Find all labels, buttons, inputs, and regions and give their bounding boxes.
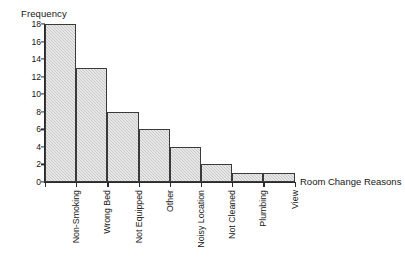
x-tick-label-text: Non-Smoking (71, 190, 81, 243)
x-tick-mark (139, 183, 140, 187)
x-tick-mark (45, 183, 46, 187)
bar (170, 147, 201, 182)
x-tick-label-text: View (290, 190, 300, 209)
y-tick-label: 0 (0, 177, 41, 187)
x-axis-title: Room Change Reasons (300, 176, 401, 187)
x-tick-label-text: Noisy Location (196, 190, 206, 248)
y-tick-label: 6 (0, 124, 41, 134)
x-tick-label-text: Not Equipped (134, 190, 144, 243)
x-tick-mark (76, 183, 77, 187)
bar (45, 24, 76, 182)
bar (201, 164, 232, 182)
x-tick-label-text: Other (165, 190, 175, 212)
x-tick-label-text: Not Cleaned (227, 190, 237, 239)
x-tick-mark (170, 183, 171, 187)
y-tick-label: 14 (0, 54, 41, 64)
bar (139, 129, 170, 182)
y-axis-title: Frequency (21, 8, 67, 19)
x-tick-label-text: Wrong Bed (102, 190, 112, 234)
y-tick-label: 2 (0, 159, 41, 169)
y-tick-label: 10 (0, 89, 41, 99)
y-tick-label: 12 (0, 72, 41, 82)
y-tick-label: 4 (0, 142, 41, 152)
x-tick-mark (107, 183, 108, 187)
x-tick-label-text: Plumbing (258, 190, 268, 227)
bar (76, 68, 107, 182)
y-tick-label: 18 (0, 19, 41, 29)
bar-chart: Frequency Room Change Reasons 0246810121… (0, 0, 405, 257)
x-tick-mark (201, 183, 202, 187)
y-tick-label: 8 (0, 107, 41, 117)
x-tick-mark (263, 183, 264, 187)
plot-area (45, 24, 296, 182)
bar (263, 173, 294, 182)
x-tick-mark (232, 183, 233, 187)
y-tick-label: 16 (0, 37, 41, 47)
bar (232, 173, 263, 182)
bar (107, 112, 138, 182)
x-tick-mark (295, 183, 296, 187)
